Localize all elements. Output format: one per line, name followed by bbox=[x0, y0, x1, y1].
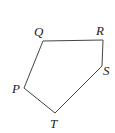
vertex-label-s: S bbox=[103, 63, 110, 78]
vertex-label-p: P bbox=[11, 81, 20, 96]
vertex-label-r: R bbox=[95, 23, 104, 38]
vertex-label-q: Q bbox=[34, 24, 44, 39]
pentagon-outline bbox=[24, 40, 103, 113]
pentagon-diagram: Q R S T P bbox=[0, 0, 115, 133]
vertex-label-t: T bbox=[50, 116, 58, 131]
